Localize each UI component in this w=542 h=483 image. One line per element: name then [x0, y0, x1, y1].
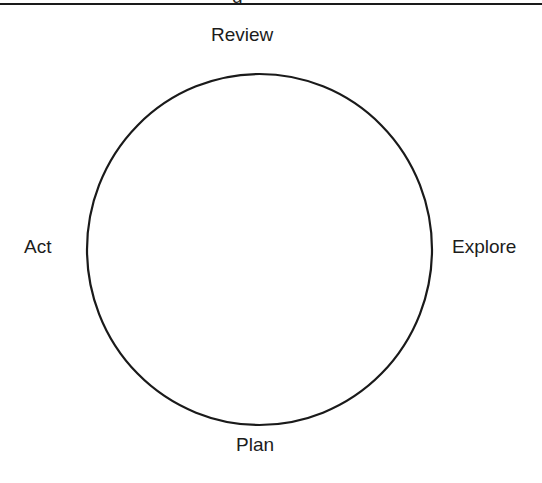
node-label-explore: Explore: [452, 237, 516, 256]
cycle-circle: [87, 74, 432, 425]
node-label-plan: Plan: [236, 435, 274, 454]
node-label-act: Act: [24, 237, 51, 256]
node-label-review: Review: [211, 25, 273, 44]
